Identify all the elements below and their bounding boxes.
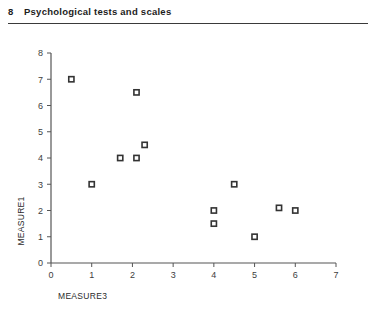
y-tick-label: 8 xyxy=(38,48,43,58)
x-axis: 01234567 xyxy=(48,263,338,280)
y-tick-label: 1 xyxy=(38,232,43,242)
data-point xyxy=(142,142,147,147)
data-point xyxy=(211,208,216,213)
chapter-number: 8 xyxy=(8,6,13,17)
x-tick-label: 6 xyxy=(293,270,298,280)
y-tick-label: 5 xyxy=(38,127,43,137)
data-point xyxy=(293,208,298,213)
x-tick-label: 4 xyxy=(211,270,216,280)
x-tick-label: 3 xyxy=(171,270,176,280)
x-tick-label: 1 xyxy=(89,270,94,280)
data-point xyxy=(89,182,94,187)
y-tick-label: 2 xyxy=(38,206,43,216)
page-header: 8 Psychological tests and scales xyxy=(0,0,376,26)
y-tick-label: 7 xyxy=(38,75,43,85)
data-point xyxy=(69,77,74,82)
y-tick-label: 0 xyxy=(38,258,43,268)
y-axis: 012345678 xyxy=(38,48,51,268)
x-tick-label: 7 xyxy=(333,270,338,280)
data-points-group xyxy=(69,77,298,240)
data-point xyxy=(232,182,237,187)
scatter-plot-figure: 012345678 01234567 MEASURE3 MEASURE1 xyxy=(0,26,376,313)
data-point xyxy=(134,90,139,95)
page-title: Psychological tests and scales xyxy=(24,6,171,17)
data-point xyxy=(211,221,216,226)
data-point xyxy=(118,155,123,160)
x-tick-label: 5 xyxy=(252,270,257,280)
y-axis-title: MEASURE1 xyxy=(16,196,26,245)
y-tick-label: 6 xyxy=(38,101,43,111)
y-tick-label: 4 xyxy=(38,153,43,163)
data-point xyxy=(252,234,257,239)
x-tick-label: 2 xyxy=(130,270,135,280)
data-point xyxy=(134,155,139,160)
x-axis-title: MEASURE3 xyxy=(58,291,107,301)
y-tick-label: 3 xyxy=(38,180,43,190)
scatter-plot: 012345678 01234567 MEASURE3 MEASURE1 xyxy=(0,26,376,313)
header-divider xyxy=(8,23,368,24)
x-tick-label: 0 xyxy=(48,270,53,280)
data-point xyxy=(276,205,281,210)
